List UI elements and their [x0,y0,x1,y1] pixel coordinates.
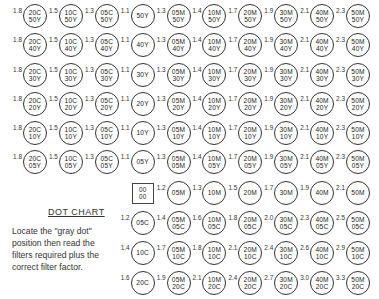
filter-factor: 2.6 [293,244,309,251]
filter-primary: 05M [172,276,185,283]
filter-primary: 10M [208,126,221,133]
filter-secondary: 40Y [29,45,41,52]
filter-secondary: 10Y [352,133,364,140]
filter-factor: 1.8 [6,66,22,73]
filter-factor: 1.7 [221,66,237,73]
filter-factor: 1.4 [185,36,201,43]
filter-primary: 30M [280,126,293,133]
filter-primary: 05M [172,9,185,16]
filter-primary: 10M [208,155,221,162]
filter-primary: 50M [351,9,364,16]
filter-primary: 40M [315,38,328,45]
filter-secondary: 30Y [101,75,113,82]
filter-secondary: 05C [316,223,329,230]
filter-primary: 05M [172,216,185,223]
filter-factor: 1.6 [185,214,201,221]
filter-primary: 40M [315,68,328,75]
filter-factor: 1.3 [78,36,94,43]
chart-description: Locate the "gray dot" position then read… [12,225,117,273]
filter-factor: 1.1 [114,7,130,14]
filter-secondary: 20Y [172,104,184,111]
filter-primary: 30M [280,9,293,16]
filter-secondary: 30Y [172,75,184,82]
filter-primary: 10M [208,38,221,45]
filter-primary: 05Y [136,158,148,165]
filter-factor: 2.3 [293,214,309,221]
filter-primary: 10M [208,68,221,75]
filter-primary: 05C [100,97,113,104]
filter-secondary: 05Y [280,162,292,169]
filter-factor: 2.7 [257,274,273,281]
filter-primary: 05M [172,189,185,196]
filter-factor: 1.3 [150,124,166,131]
filter-factor: 1.2 [114,214,130,221]
filter-factor: 1.4 [185,7,201,14]
filter-factor: 1.8 [6,124,22,131]
filter-secondary: 10C [316,253,329,260]
filter-secondary: 40Y [172,45,184,52]
filter-factor: 2.3 [329,95,345,102]
filter-factor: 1.3 [185,184,201,191]
filter-factor: 1.8 [6,36,22,43]
filter-factor: 2.3 [329,36,345,43]
filter-dot: 50M30Y [346,63,370,87]
filter-secondary: 20C [208,283,221,290]
chart-title: DOT CHART [48,207,105,217]
filter-secondary: 50Y [316,16,328,23]
filter-secondary: 50Y [101,16,113,23]
filter-secondary: 10Y [208,133,220,140]
gray-dot-bottom: 00 [139,193,146,200]
filter-factor: 2.1 [293,7,309,14]
filter-factor: 1.8 [6,153,22,160]
filter-secondary: 30Y [316,75,328,82]
filter-factor: 1.3 [150,36,166,43]
filter-primary: 10Y [136,129,148,136]
filter-secondary: 05Y [208,162,220,169]
filter-factor: 1.7 [221,124,237,131]
filter-dot: 50M40Y [346,33,370,57]
filter-secondary: 20C [352,283,365,290]
filter-primary: 20C [29,68,42,75]
filter-secondary: 10Y [316,133,328,140]
filter-secondary: 30Y [208,75,220,82]
filter-primary: 05M [172,126,185,133]
filter-primary: 40M [315,97,328,104]
filter-factor: 2.4 [257,244,273,251]
filter-primary: 40M [315,9,328,16]
filter-factor: 1.1 [114,95,130,102]
filter-secondary: 05Y [316,162,328,169]
filter-secondary: 50Y [280,16,292,23]
filter-primary: 20M [244,38,257,45]
filter-factor: 1.8 [6,95,22,102]
filter-dot: 50M05C [346,211,370,235]
filter-primary: 40M [315,155,328,162]
filter-primary: 20M [244,126,257,133]
filter-factor: 1.3 [78,124,94,131]
filter-factor: 2.1 [329,184,345,191]
filter-primary: 10M [208,216,221,223]
filter-factor: 1.3 [150,95,166,102]
filter-factor: 2.3 [329,7,345,14]
filter-primary: 05M [172,38,185,45]
filter-primary: 20M [244,9,257,16]
filter-secondary: 50Y [172,16,184,23]
filter-secondary: 20C [172,283,185,290]
filter-secondary: 05C [208,223,221,230]
filter-factor: 2.9 [329,244,345,251]
filter-primary: 20C [136,279,149,286]
filter-secondary: 40Y [316,45,328,52]
filter-primary: 20C [29,155,42,162]
filter-primary: 30M [280,38,293,45]
filter-factor: 1.9 [257,124,273,131]
filter-secondary: 05Y [65,162,77,169]
filter-primary: 50M [351,276,364,283]
filter-secondary: 10Y [101,133,113,140]
filter-primary: 40M [315,126,328,133]
filter-factor: 1.9 [257,153,273,160]
filter-factor: 1.4 [185,153,201,160]
filter-primary: 50M [351,216,364,223]
filter-primary: 40M [315,189,328,196]
filter-primary: 10C [65,97,78,104]
filter-factor: 1.8 [6,7,22,14]
filter-factor: 1.8 [221,214,237,221]
